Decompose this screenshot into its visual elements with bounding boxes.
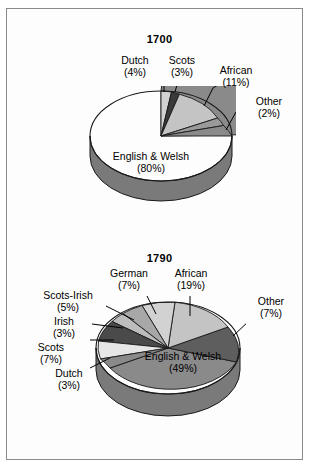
label-scots-1790: Scots (7%) [26, 342, 76, 365]
chart-title-1700: 1700 [0, 33, 319, 45]
label-dutch-1790: Dutch (3%) [44, 368, 94, 391]
label-african-1790: African (19%) [163, 268, 219, 291]
label-irish-1790: Irish (3%) [42, 316, 86, 339]
chart-title-1790: 1790 [0, 252, 319, 264]
label-other-1790: Other (7%) [248, 296, 294, 319]
label-other-1700: Other (2%) [246, 96, 292, 119]
label-english-welsh-1790: English & Welsh (49%) [128, 351, 238, 374]
label-dutch-1700: Dutch (4%) [112, 55, 158, 78]
pie-chart-1700: 1700 [0, 0, 319, 240]
label-german-1790: German (7%) [100, 268, 158, 291]
label-african-1700: African (11%) [210, 65, 262, 88]
label-scots-irish-1790: Scots-Irish (5%) [32, 290, 104, 313]
label-english-welsh-1700: English & Welsh (80%) [96, 151, 206, 174]
label-scots-1700: Scots (3%) [160, 55, 204, 78]
pie-chart-1790: 1790 [0, 238, 319, 458]
